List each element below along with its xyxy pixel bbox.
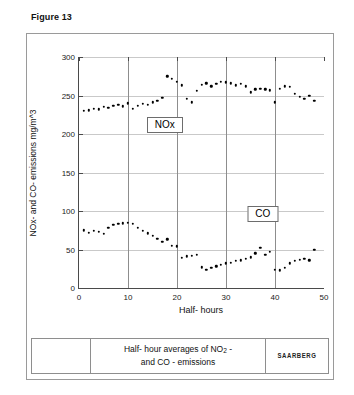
data-point <box>83 110 85 112</box>
data-point <box>171 244 173 246</box>
data-point <box>112 104 114 106</box>
data-point <box>92 230 94 232</box>
data-point <box>181 257 183 259</box>
y-tick-mark <box>79 96 83 97</box>
data-point <box>166 75 168 77</box>
caption-line1: Half- hour averages of NO <box>124 344 223 354</box>
caption-cell-logo: SAARBERG <box>266 339 328 373</box>
y-tick-label: 0 <box>71 284 75 293</box>
data-point <box>132 223 134 225</box>
y-tick-mark <box>79 211 83 212</box>
data-point <box>195 90 197 92</box>
y-tick-mark <box>79 250 83 251</box>
data-point <box>254 252 256 254</box>
series-label-nox: NOx <box>147 117 183 133</box>
data-point <box>102 106 104 108</box>
data-point <box>288 262 290 264</box>
data-point <box>132 107 134 109</box>
x-tick-mark <box>128 57 129 61</box>
data-point <box>293 260 295 262</box>
data-point <box>254 88 256 90</box>
y-tick-label: 50 <box>66 245 75 254</box>
x-tick-mark <box>275 57 276 61</box>
gridline-horizontal <box>79 211 324 212</box>
series-label-co: CO <box>247 206 278 222</box>
data-point <box>264 254 266 256</box>
data-point <box>122 105 124 107</box>
data-point <box>220 80 222 82</box>
data-point <box>195 254 197 256</box>
data-point <box>141 230 143 232</box>
y-tick-label: 300 <box>62 53 75 62</box>
data-point <box>92 107 94 109</box>
data-point <box>288 86 290 88</box>
caption-line1-tail: - <box>227 344 232 354</box>
data-point <box>230 82 232 84</box>
data-point <box>186 97 188 99</box>
data-point <box>141 103 143 105</box>
data-point <box>200 266 202 268</box>
x-tick-label: 20 <box>173 293 182 302</box>
gridline-horizontal <box>79 134 324 135</box>
data-point <box>97 231 99 233</box>
y-tick-label: 150 <box>62 168 75 177</box>
data-point <box>88 231 90 233</box>
data-point <box>137 104 139 106</box>
data-point <box>210 85 212 87</box>
x-tick-mark <box>324 57 325 61</box>
data-point <box>83 229 85 231</box>
data-point <box>181 84 183 86</box>
data-point <box>205 268 207 270</box>
data-point <box>107 107 109 109</box>
plot-box: 050100150200250300 01020304050 NOxCO <box>78 57 324 289</box>
gridline-vertical <box>275 57 276 288</box>
x-axis-title: Half- hours <box>179 305 223 315</box>
x-tick-mark <box>177 57 178 61</box>
data-point <box>284 267 286 269</box>
x-tick-label: 50 <box>320 293 329 302</box>
data-point <box>88 109 90 111</box>
data-point <box>161 97 163 99</box>
caption-cell-left <box>32 339 91 373</box>
data-point <box>137 227 139 229</box>
x-tick-label: 0 <box>77 293 81 302</box>
x-tick-mark <box>226 57 227 61</box>
data-point <box>122 222 124 224</box>
y-tick-label: 100 <box>62 207 75 216</box>
gridline-horizontal <box>79 173 324 174</box>
data-point <box>303 97 305 99</box>
data-point <box>205 82 207 84</box>
data-point <box>313 100 315 102</box>
y-tick-mark <box>79 134 83 135</box>
data-point <box>279 269 281 271</box>
x-tick-mark <box>79 57 80 61</box>
data-point <box>298 258 300 260</box>
data-point <box>215 265 217 267</box>
gridline-vertical <box>177 57 178 288</box>
data-point <box>186 255 188 257</box>
data-point <box>171 77 173 79</box>
data-point <box>107 227 109 229</box>
data-point <box>264 88 266 90</box>
data-point <box>235 84 237 86</box>
data-point <box>190 101 192 103</box>
data-point <box>190 254 192 256</box>
gridline-horizontal <box>79 57 324 58</box>
data-point <box>102 233 104 235</box>
data-point <box>146 232 148 234</box>
data-point <box>303 258 305 260</box>
data-point <box>259 87 261 89</box>
data-point <box>220 264 222 266</box>
data-point <box>97 108 99 110</box>
data-point <box>146 104 148 106</box>
saarberg-logo: SAARBERG <box>277 353 316 360</box>
data-point <box>151 234 153 236</box>
gridline-vertical <box>226 57 227 288</box>
caption-line2: and CO - emissions <box>141 357 216 367</box>
data-point <box>308 259 310 261</box>
data-point <box>249 256 251 258</box>
chart-plot-area: NOx- and CO- emissions mg/m^3 Half- hour… <box>26 33 334 325</box>
x-tick-label: 10 <box>124 293 133 302</box>
data-point <box>269 251 271 253</box>
data-point <box>249 91 251 93</box>
